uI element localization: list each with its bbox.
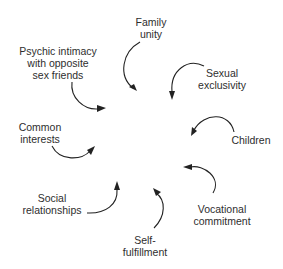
label-line: Common: [19, 121, 62, 133]
arrow-common-interests: [52, 146, 95, 158]
label-line: Sexual: [198, 67, 246, 79]
label-line: exclusivity: [198, 79, 246, 91]
arrow-self-fulfillment: [153, 188, 163, 228]
label-line: Family: [136, 16, 167, 28]
label-line: Psychic intimacy: [19, 45, 97, 57]
label-line: Children: [231, 134, 270, 146]
label-line: interests: [19, 133, 62, 145]
arrow-children: [191, 117, 234, 136]
label-line: unity: [136, 28, 167, 40]
arrow-vocational-commitment: [183, 164, 215, 193]
label-psychic-intimacy: Psychic intimacy with opposite sex frien…: [19, 45, 97, 81]
label-common-interests: Common interests: [19, 121, 62, 145]
label-line: commitment: [193, 215, 250, 227]
label-family-unity: Family unity: [136, 16, 167, 40]
label-line: fulfillment: [123, 246, 167, 258]
label-line: sex friends: [19, 69, 97, 81]
label-line: with opposite: [19, 57, 97, 69]
arrow-social-relationships: [87, 181, 120, 213]
arrow-psychic-intimacy: [72, 82, 106, 112]
label-line: Social: [23, 192, 82, 204]
label-line: Vocational: [193, 203, 250, 215]
label-social-relationships: Social relationships: [23, 192, 82, 216]
label-children: Children: [231, 134, 270, 146]
arrow-family-unity: [124, 42, 140, 91]
label-vocational-commitment: Vocational commitment: [193, 203, 250, 227]
label-line: Self-: [123, 234, 167, 246]
label-sexual-exclusivity: Sexual exclusivity: [198, 67, 246, 91]
label-line: relationships: [23, 204, 82, 216]
label-self-fulfillment: Self- fulfillment: [123, 234, 167, 258]
marriage-factors-diagram: Family unity Sexual exclusivity Children…: [0, 0, 283, 269]
